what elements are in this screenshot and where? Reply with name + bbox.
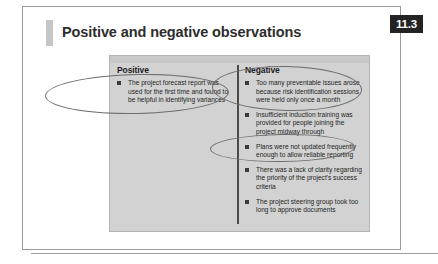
column-negative: Negative Too many preventable issues aro…	[245, 65, 365, 221]
panel-top-strip	[110, 56, 369, 63]
section-number-badge: 11.3	[390, 15, 423, 33]
list-item-text: Insufficient induction training was prov…	[256, 111, 353, 135]
list-item: Insufficient induction training was prov…	[245, 111, 365, 137]
observations-panel: Positive The project forecast report was…	[109, 55, 370, 232]
list-item: There was a lack of clarity regarding th…	[245, 166, 365, 192]
list-item: The project forecast report was used for…	[117, 79, 234, 105]
page-title: Positive and negative observations	[62, 24, 301, 40]
list-item-text: Too many preventable issues arose becaus…	[256, 79, 360, 103]
bullet-square-icon	[245, 200, 249, 204]
bottom-rule	[31, 253, 438, 254]
bullet-list-negative: Too many preventable issues arose becaus…	[245, 79, 365, 215]
title-accent-bar	[46, 20, 53, 46]
column-divider	[237, 65, 239, 224]
list-item: Too many preventable issues arose becaus…	[245, 79, 365, 105]
list-item-text: The project forecast report was used for…	[128, 79, 228, 103]
bullet-square-icon	[245, 168, 249, 172]
list-item-text: The project steering group took too long…	[256, 198, 358, 214]
page-card: Positive and negative observations 11.3 …	[22, 6, 401, 250]
bullet-square-icon	[245, 145, 249, 149]
list-item-text: There was a lack of clarity regarding th…	[256, 166, 362, 190]
column-positive: Positive The project forecast report was…	[117, 65, 234, 111]
bullet-square-icon	[245, 113, 249, 117]
column-header-negative: Negative	[245, 65, 365, 75]
bullet-square-icon	[245, 81, 249, 85]
bullet-square-icon	[117, 81, 121, 85]
column-header-positive: Positive	[117, 65, 234, 75]
list-item: Plans were not updated frequently enough…	[245, 143, 365, 160]
list-item: The project steering group took too long…	[245, 198, 365, 215]
list-item-text: Plans were not updated frequently enough…	[256, 143, 356, 159]
bullet-list-positive: The project forecast report was used for…	[117, 79, 234, 105]
